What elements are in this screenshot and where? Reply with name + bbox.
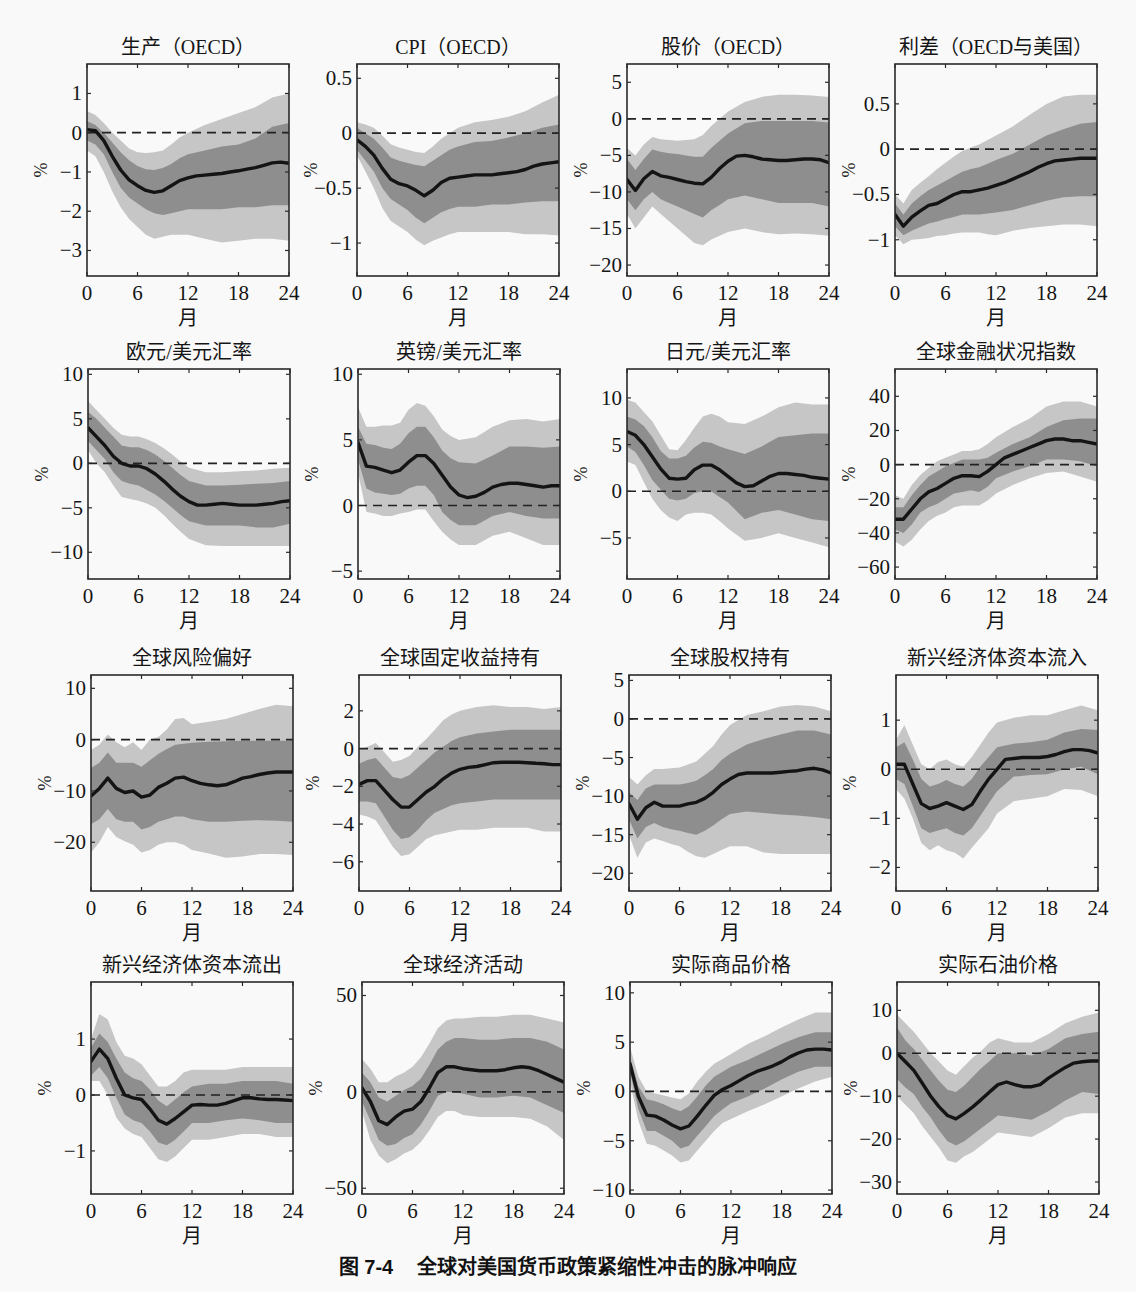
x-axis-label: 月: [897, 1225, 1099, 1247]
plot-content: [362, 1015, 564, 1163]
x-tick-label: 6: [120, 897, 164, 919]
x-tick-label: 12: [438, 897, 482, 919]
x-tick-label: 0: [69, 1200, 113, 1222]
y-axis-label: %: [841, 1078, 861, 1098]
x-axis-label: 月: [895, 610, 1097, 632]
panel-stock-prices-oecd: 股价（OECD） % 月 06121824−20−15−10−505: [627, 64, 829, 276]
y-tick-label: 0: [344, 738, 355, 760]
plot-area: [87, 64, 289, 276]
plot-area: [91, 675, 293, 891]
y-axis-label: %: [571, 464, 591, 484]
x-tick-label: 6: [656, 282, 700, 304]
plot-content: [627, 400, 829, 548]
plot-area: [362, 982, 564, 1194]
y-tick-label: −2: [869, 856, 891, 878]
y-tick-label: 0: [347, 1081, 358, 1103]
y-tick-label: −5: [600, 527, 622, 549]
plot-content: [630, 1013, 832, 1163]
panel-em-capital-inflows: 新兴经济体资本流入 % 月 06121824−2−101: [896, 675, 1098, 891]
y-axis-label: %: [32, 464, 52, 484]
y-tick-label: −10: [859, 1085, 892, 1107]
panel-title: 新兴经济体资本流入: [826, 646, 1136, 670]
x-tick-label: 24: [538, 585, 582, 607]
x-tick-label: 18: [757, 282, 801, 304]
x-axis-label: 月: [895, 307, 1097, 329]
panel-em-capital-outflows: 新兴经济体资本流出 % 月 06121824−101: [91, 982, 293, 1194]
x-tick-label: 0: [875, 1200, 919, 1222]
x-tick-label: 6: [120, 1200, 164, 1222]
x-tick-label: 24: [1075, 585, 1119, 607]
x-tick-label: 18: [487, 282, 531, 304]
x-tick-label: 6: [388, 897, 432, 919]
x-tick-label: 18: [759, 897, 803, 919]
x-axis-label: 月: [359, 922, 561, 944]
plot-content: [627, 95, 829, 246]
y-tick-label: −15: [591, 824, 624, 846]
panel-cpi-oecd: CPI（OECD） % 月 06121824−1−0.500.5: [357, 64, 559, 276]
x-tick-label: 6: [386, 282, 430, 304]
x-tick-label: 6: [656, 585, 700, 607]
y-tick-label: 0: [882, 1042, 893, 1064]
y-tick-label: −40: [857, 522, 890, 544]
y-tick-label: −3: [60, 239, 82, 261]
x-tick-label: 12: [436, 282, 480, 304]
plot-content: [357, 95, 559, 245]
y-tick-label: 20: [869, 419, 890, 441]
plot-area: [358, 369, 560, 579]
x-tick-label: 24: [267, 282, 311, 304]
y-tick-label: −1: [60, 161, 82, 183]
x-tick-label: 0: [607, 897, 651, 919]
y-tick-label: 10: [62, 363, 83, 385]
y-axis-label: %: [839, 464, 859, 484]
y-tick-label: −20: [859, 1128, 892, 1150]
panel-rate-spread-oecd-us: 利差（OECD与美国） % 月 06121824−1−0.500.5: [895, 64, 1097, 276]
y-axis-label: %: [302, 464, 322, 484]
plot-content: [88, 401, 290, 546]
y-tick-label: 0: [881, 758, 892, 780]
x-tick-label: 24: [542, 1200, 586, 1222]
panel-real-commodity-prices: 实际商品价格 % 月 06121824−10−50510: [630, 982, 832, 1194]
x-tick-label: 0: [340, 1200, 384, 1222]
plot-area: [91, 982, 293, 1194]
y-axis-label: %: [303, 773, 323, 793]
y-tick-label: −50: [324, 1177, 357, 1199]
x-tick-label: 12: [441, 1200, 485, 1222]
panel-jpy-usd-rate: 日元/美元汇率 % 月 06121824−50510: [627, 369, 829, 579]
y-tick-label: 40: [869, 385, 890, 407]
plot-area: [88, 369, 290, 579]
y-tick-label: 0: [73, 452, 84, 474]
panel-title: 全球金融状况指数: [825, 340, 1136, 364]
y-tick-label: −20: [591, 862, 624, 884]
y-tick-label: −5: [602, 747, 624, 769]
x-tick-label: 18: [488, 585, 532, 607]
x-axis-label: 月: [896, 922, 1098, 944]
x-tick-label: 18: [1027, 1200, 1071, 1222]
x-tick-label: 18: [1026, 897, 1070, 919]
panel-eur-usd-rate: 欧元/美元汇率 % 月 06121824−10−50510: [88, 369, 290, 579]
x-axis-label: 月: [362, 1225, 564, 1247]
plot-area: [895, 64, 1097, 276]
x-tick-label: 6: [926, 1200, 970, 1222]
plot-area: [627, 369, 829, 579]
y-tick-label: −5: [603, 1130, 625, 1152]
y-tick-label: 50: [336, 984, 357, 1006]
y-tick-label: 5: [612, 434, 623, 456]
y-tick-label: 0: [880, 138, 891, 160]
panel-real-oil-price: 实际石油价格 % 月 06121824−30−20−10010: [897, 982, 1099, 1194]
y-tick-label: −6: [332, 851, 354, 873]
x-tick-label: 18: [492, 1200, 536, 1222]
x-tick-label: 6: [391, 1200, 435, 1222]
x-axis-label: 月: [627, 307, 829, 329]
x-tick-label: 6: [924, 282, 968, 304]
plot-area: [630, 982, 832, 1194]
y-tick-label: −4: [332, 813, 354, 835]
plot-content: [895, 95, 1097, 245]
x-tick-label: 6: [117, 585, 161, 607]
x-tick-label: 18: [489, 897, 533, 919]
x-tick-label: 0: [66, 585, 110, 607]
x-tick-label: 6: [658, 897, 702, 919]
y-tick-label: 5: [343, 429, 354, 451]
x-tick-label: 12: [167, 585, 211, 607]
plot-content: [91, 705, 293, 858]
inner-confidence-band: [630, 1032, 832, 1148]
